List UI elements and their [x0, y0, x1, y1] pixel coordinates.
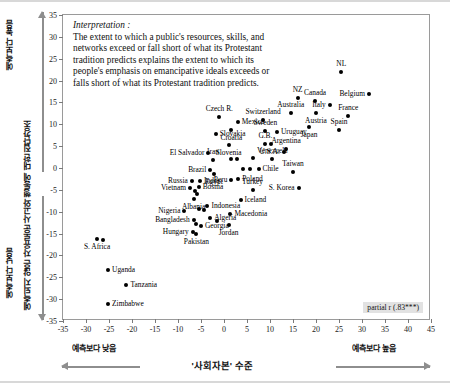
scatter-point[interactable]: [101, 238, 105, 242]
scatter-point-label: Zimbabwe: [112, 300, 144, 308]
x-axis-tick-label: -35: [58, 325, 69, 334]
scatter-point[interactable]: [307, 125, 311, 129]
scatter-point[interactable]: [251, 188, 255, 192]
scatter-point[interactable]: [297, 186, 301, 190]
x-axis-high-label: 예측보다 높음: [352, 344, 396, 354]
scatter-point[interactable]: [188, 186, 192, 190]
y-axis-tick: [59, 299, 63, 300]
scatter-point[interactable]: [275, 130, 279, 134]
y-axis-low-label: 예측보다 낮음: [5, 250, 14, 298]
scatter-point-label: Japan: [301, 131, 318, 139]
scatter-point-label: Pakistan: [184, 238, 209, 246]
scatter-point[interactable]: [367, 92, 371, 96]
scatter-point-label: Iceland: [245, 196, 267, 204]
y-axis-tick: [59, 277, 63, 278]
scatter-point[interactable]: [95, 237, 99, 241]
x-axis-tick: [362, 319, 363, 323]
x-axis-tick: [132, 319, 133, 323]
scatter-point[interactable]: [235, 157, 239, 161]
scatter-point[interactable]: [236, 120, 240, 124]
scatter-point[interactable]: [124, 283, 128, 287]
scatter-point[interactable]: [182, 209, 186, 213]
y-axis-tick-label: 20: [49, 76, 57, 85]
y-axis-tick-label: 5: [53, 142, 57, 151]
y-axis-tick-label: 15: [49, 98, 57, 107]
scatter-point-label: Chile: [263, 165, 279, 173]
plot-frame: 35302520151050-5-10-15-20-25-30-35-35-30…: [62, 14, 430, 320]
scatter-point[interactable]: [208, 216, 212, 220]
scatter-point[interactable]: [339, 70, 343, 74]
y-axis-tick: [59, 190, 63, 191]
scatter-point[interactable]: [211, 158, 215, 162]
scatter-point-label: Jordan: [219, 229, 239, 237]
scatter-point-label: Spain: [331, 118, 348, 126]
x-axis-left-arrow-icon: [62, 362, 140, 371]
chart-root: 예측보다 높음 예측되지 않은 자유로운 사고와 행동에 대한 집단강조 예측보…: [0, 0, 450, 385]
y-axis-tick: [59, 102, 63, 103]
x-axis-tick-label: 0: [222, 325, 226, 334]
y-axis-tick: [59, 212, 63, 213]
scatter-point[interactable]: [227, 143, 231, 147]
x-axis-tick-label: 20: [312, 325, 320, 334]
x-axis-tick-label: 35: [381, 325, 389, 334]
scatter-point[interactable]: [195, 192, 199, 196]
x-axis-tick: [86, 319, 87, 323]
scatter-point[interactable]: [205, 204, 209, 208]
x-axis-tick: [178, 319, 179, 323]
scatter-point[interactable]: [236, 177, 240, 181]
scatter-point-label: France: [338, 104, 358, 112]
x-axis-tick: [431, 319, 432, 323]
scatter-point[interactable]: [289, 111, 293, 115]
x-axis-tick-label: -20: [127, 325, 138, 334]
interpretation-heading: Interpretation :: [73, 20, 279, 32]
x-axis-tick-label: -5: [198, 325, 205, 334]
scatter-point[interactable]: [241, 167, 245, 171]
scatter-point[interactable]: [106, 268, 110, 272]
scatter-point[interactable]: [198, 179, 202, 183]
scatter-point[interactable]: [328, 103, 332, 107]
scatter-point[interactable]: [194, 222, 198, 226]
interpretation-body: The extent to which a public's resources…: [73, 32, 279, 90]
x-axis-tick: [201, 319, 202, 323]
scatter-point[interactable]: [291, 170, 295, 174]
scatter-point-label: Taiwan: [282, 160, 304, 168]
y-axis-tick-label: -25: [46, 273, 57, 282]
scatter-point[interactable]: [229, 157, 233, 161]
scatter-point-label: NL: [336, 60, 346, 68]
scatter-point[interactable]: [199, 224, 203, 228]
scatter-point-label: Macedonia: [234, 210, 267, 218]
y-axis-tick: [59, 59, 63, 60]
scatter-point-label: Turkey: [242, 178, 263, 186]
y-axis-tick-label: 25: [49, 54, 57, 63]
scatter-point[interactable]: [337, 128, 341, 132]
scatter-point[interactable]: [197, 185, 201, 189]
scatter-point-label: Bangladesh: [155, 216, 189, 224]
x-axis-tick: [224, 319, 225, 323]
x-axis-tick: [293, 319, 294, 323]
scatter-point[interactable]: [194, 232, 198, 236]
scatter-point[interactable]: [214, 132, 218, 136]
scatter-point[interactable]: [314, 111, 318, 115]
scatter-point[interactable]: [197, 207, 201, 211]
scatter-point[interactable]: [227, 223, 231, 227]
y-axis-tick-label: 10: [49, 120, 57, 129]
x-axis-title: '사회자본' 수준: [191, 358, 252, 372]
scatter-point[interactable]: [217, 115, 221, 119]
scatter-point[interactable]: [248, 167, 252, 171]
scatter-point[interactable]: [257, 167, 261, 171]
scatter-point[interactable]: [270, 157, 274, 161]
scatter-point[interactable]: [229, 178, 233, 182]
x-axis-tick-label: 15: [289, 325, 297, 334]
scatter-point-label: Czech R.: [206, 105, 233, 113]
scatter-point[interactable]: [208, 168, 212, 172]
scatter-point[interactable]: [202, 208, 206, 212]
scatter-point[interactable]: [251, 156, 255, 160]
scatter-point-label: Italy: [312, 101, 326, 109]
scatter-point[interactable]: [106, 302, 110, 306]
scatter-point-label: Vietnam: [161, 184, 186, 192]
scatter-point[interactable]: [192, 197, 196, 201]
scatter-point[interactable]: [190, 179, 194, 183]
y-axis-title: 예측되지 않은 자유로운 사고와 행동에 대한 집단강조: [22, 62, 34, 310]
y-axis-tick: [59, 81, 63, 82]
x-axis-tick: [270, 319, 271, 323]
